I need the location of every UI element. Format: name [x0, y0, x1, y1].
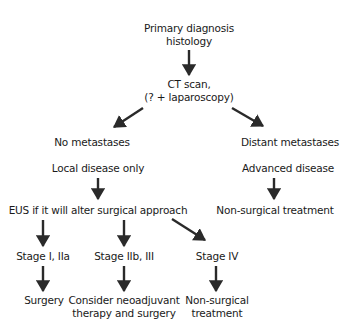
node-line: Surgery	[24, 294, 64, 307]
node-line: Primary diagnosis	[144, 22, 234, 35]
node-line: Local disease only	[52, 162, 144, 175]
node-ct-scan: CT scan, (? + laparoscopy)	[144, 78, 233, 104]
node-line: Stage I, IIa	[16, 250, 70, 263]
node-eus: EUS if it will alter surgical approach	[9, 204, 188, 217]
node-line: therapy and surgery	[68, 307, 179, 320]
node-line: EUS if it will alter surgical approach	[9, 204, 188, 217]
node-non-surgical-treatment-right: Non-surgical treatment	[216, 204, 333, 217]
node-advanced-disease: Advanced disease	[242, 162, 334, 175]
node-line: Non-surgical treatment	[216, 204, 333, 217]
node-no-metastases: No metastases	[54, 136, 130, 149]
node-surgery: Surgery	[24, 294, 64, 307]
node-local-disease: Local disease only	[52, 162, 144, 175]
node-line: Stage IV	[196, 250, 238, 263]
node-line: histology	[144, 35, 234, 48]
node-line: Distant metastases	[241, 136, 339, 149]
node-line: Non-surgical	[185, 294, 248, 307]
node-line: No metastases	[54, 136, 130, 149]
node-neoadjuvant: Consider neoadjuvant therapy and surgery	[68, 294, 179, 320]
node-line: treatment	[185, 307, 248, 320]
arrow-ct-to-distant-metastases	[232, 108, 263, 126]
node-distant-metastases: Distant metastases	[241, 136, 339, 149]
node-line: Stage IIb, III	[94, 250, 154, 263]
arrow-eus-to-stage-4	[172, 219, 205, 240]
arrow-ct-to-no-metastases	[114, 108, 143, 127]
node-line: CT scan,	[144, 78, 233, 91]
node-line: Advanced disease	[242, 162, 334, 175]
node-stage-4: Stage IV	[196, 250, 238, 263]
node-non-surgical-treatment-bottom: Non-surgical treatment	[185, 294, 248, 320]
node-line: (? + laparoscopy)	[144, 91, 233, 104]
node-stage-1-2a: Stage I, IIa	[16, 250, 70, 263]
flowchart-canvas: Primary diagnosis histology CT scan, (? …	[0, 0, 346, 334]
node-stage-2b-3: Stage IIb, III	[94, 250, 154, 263]
node-primary-diagnosis: Primary diagnosis histology	[144, 22, 234, 48]
node-line: Consider neoadjuvant	[68, 294, 179, 307]
